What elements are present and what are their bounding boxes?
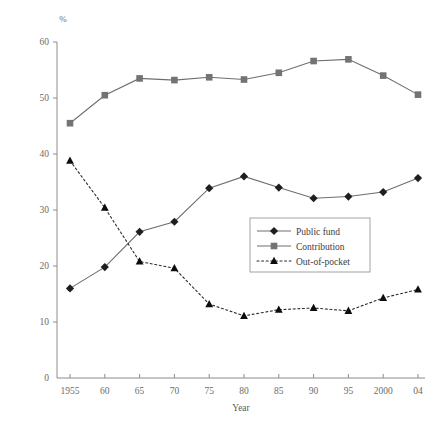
x-axis-tick-label: 70 xyxy=(170,386,180,396)
data-point xyxy=(240,172,248,180)
y-axis-tick-label: 10 xyxy=(40,317,50,327)
chart-legend: Public fundContributionOut-of-pocket xyxy=(250,218,370,272)
data-point xyxy=(171,77,178,84)
x-axis-tick-label: 95 xyxy=(344,386,354,396)
series-line xyxy=(70,59,418,123)
y-axis-tick-label: 60 xyxy=(40,37,50,47)
data-point xyxy=(415,91,422,98)
y-axis-tick-label: 30 xyxy=(40,205,50,215)
data-point xyxy=(136,257,144,264)
data-point xyxy=(241,76,248,83)
y-axis-tick-label: 20 xyxy=(40,261,50,271)
x-axis-tick-label: 60 xyxy=(100,386,110,396)
y-axis-tick-label: 0 xyxy=(44,373,49,383)
data-point xyxy=(240,312,248,319)
data-point xyxy=(345,56,352,63)
axes: %010203040506019556065707580859095200004… xyxy=(40,14,426,413)
data-point xyxy=(136,75,143,82)
data-point xyxy=(66,284,74,292)
chart-container: %010203040506019556065707580859095200004… xyxy=(0,0,440,432)
data-point xyxy=(310,304,318,311)
data-point xyxy=(380,72,387,79)
data-point xyxy=(379,188,387,196)
data-point xyxy=(414,285,422,292)
data-point xyxy=(206,74,213,81)
data-point xyxy=(67,120,74,127)
y-axis-tick-label: 40 xyxy=(40,149,50,159)
y-axis-unit-label: % xyxy=(59,14,67,24)
data-point xyxy=(102,92,109,99)
data-point xyxy=(414,174,422,182)
y-axis-tick-label: 50 xyxy=(40,93,50,103)
series-layer xyxy=(66,56,422,319)
legend-label: Contribution xyxy=(296,242,345,252)
x-axis-tick-label: 75 xyxy=(204,386,214,396)
data-point xyxy=(310,58,317,65)
data-point xyxy=(66,157,74,164)
data-point xyxy=(171,264,179,271)
x-axis-tick-label: 80 xyxy=(239,386,249,396)
x-axis-tick-label: 90 xyxy=(309,386,319,396)
legend-sample-marker xyxy=(271,243,278,250)
data-point xyxy=(101,204,109,211)
x-axis-tick-label: 85 xyxy=(274,386,284,396)
x-axis-title: Year xyxy=(232,403,250,413)
legend-label: Out-of-pocket xyxy=(296,257,350,267)
x-axis-tick-label: 1955 xyxy=(61,386,80,396)
x-axis-tick-label: 65 xyxy=(135,386,145,396)
x-axis-tick-label: 04 xyxy=(413,386,423,396)
x-axis-tick-label: 2000 xyxy=(374,386,393,396)
line-chart: %010203040506019556065707580859095200004… xyxy=(0,0,440,432)
data-point xyxy=(276,70,283,77)
series-contribution xyxy=(67,56,422,126)
data-point xyxy=(275,184,283,192)
data-point xyxy=(379,294,387,301)
data-point xyxy=(310,194,318,202)
legend-label: Public fund xyxy=(296,227,340,237)
data-point xyxy=(344,192,352,200)
